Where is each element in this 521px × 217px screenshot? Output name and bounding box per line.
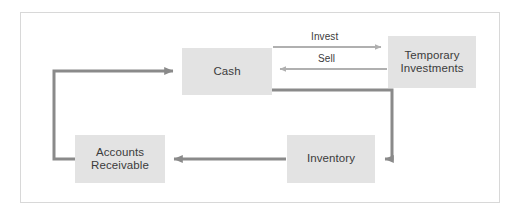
node-accounts-receivable-label: Accounts Receivable: [91, 146, 149, 173]
node-inventory: Inventory: [287, 135, 375, 183]
node-accounts-receivable-label-line1: Accounts: [96, 146, 144, 158]
edge-label-invest: Invest: [311, 31, 338, 42]
node-inventory-label: Inventory: [307, 152, 355, 166]
node-accounts-receivable: Accounts Receivable: [75, 135, 165, 183]
node-cash: Cash: [182, 48, 272, 95]
edge-label-sell: Sell: [318, 53, 335, 64]
diagram-canvas: Cash Temporary Investments Accounts Rece…: [0, 0, 521, 217]
node-temporary-investments: Temporary Investments: [388, 36, 476, 88]
node-temporary-investments-label: Temporary Investments: [400, 49, 463, 76]
node-temporary-investments-label-line2: Investments: [400, 62, 463, 74]
node-temporary-investments-label-line1: Temporary: [404, 49, 459, 61]
node-cash-label: Cash: [213, 65, 240, 79]
node-accounts-receivable-label-line2: Receivable: [91, 159, 149, 171]
